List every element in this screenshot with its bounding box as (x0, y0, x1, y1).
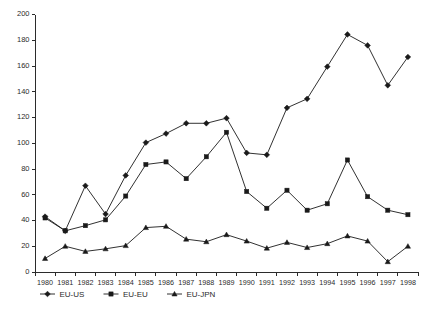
data-point (305, 208, 309, 212)
data-point (184, 237, 189, 242)
series-eu-eu (43, 130, 410, 233)
data-point (42, 256, 47, 261)
data-point (43, 216, 47, 220)
x-axis-tick-label: 1988 (198, 278, 214, 287)
y-axis-tick-label: 60 (21, 190, 29, 199)
line-chart: 020406080100120140160180200 198019811982… (0, 0, 431, 311)
data-point (285, 188, 289, 192)
y-axis-tick-label: 120 (17, 112, 30, 121)
legend-marker (45, 291, 51, 297)
data-point (224, 130, 228, 134)
x-axis-tick-label: 1981 (57, 278, 73, 287)
legend-item-eu-us[interactable]: EU-US (40, 290, 84, 299)
y-axis-tick-label: 140 (17, 87, 30, 96)
x-axis-tick-label: 1998 (400, 278, 416, 287)
x-axis-ticks: 1980198119821983198419851986198719881989… (35, 272, 418, 287)
chart-container: 020406080100120140160180200 198019811982… (0, 0, 431, 311)
x-axis-tick-label: 1980 (37, 278, 53, 287)
series-eu-jpn (42, 224, 410, 264)
y-axis-tick-label: 100 (17, 138, 30, 147)
data-point (124, 194, 128, 198)
data-point (224, 115, 230, 121)
x-axis-tick-label: 1984 (118, 278, 134, 287)
data-point (163, 131, 169, 137)
x-axis-tick-label: 1990 (239, 278, 255, 287)
data-point (164, 160, 168, 164)
data-point (406, 213, 410, 217)
legend-item-eu-eu[interactable]: EU-EU (104, 290, 149, 299)
y-axis-tick-label: 160 (17, 61, 30, 70)
data-point (83, 183, 89, 189)
x-axis-tick-label: 1982 (77, 278, 93, 287)
data-point (183, 120, 189, 126)
data-point (103, 218, 107, 222)
x-axis-tick-label: 1995 (339, 278, 355, 287)
data-point (143, 140, 149, 146)
y-axis-tick-label: 80 (21, 164, 29, 173)
data-point (345, 233, 350, 238)
chart-legend: EU-USEU-EUEU-JPN (40, 290, 216, 299)
y-axis-tick-label: 20 (21, 241, 29, 250)
data-point (345, 158, 349, 162)
data-point (123, 173, 129, 179)
x-axis-tick-label: 1985 (138, 278, 154, 287)
data-series-group (42, 32, 411, 264)
y-axis-tick-label: 40 (21, 215, 29, 224)
x-axis-tick-label: 1997 (380, 278, 396, 287)
data-point (204, 120, 210, 126)
data-point (405, 54, 411, 60)
data-point (245, 189, 249, 193)
x-axis-tick-label: 1994 (319, 278, 335, 287)
y-axis-tick-label: 180 (17, 35, 30, 44)
data-point (63, 229, 67, 233)
y-axis-tick-label: 200 (17, 9, 30, 18)
data-point (284, 240, 289, 245)
legend-label: EU-US (60, 290, 85, 299)
legend-marker (109, 292, 113, 296)
data-point (386, 208, 390, 212)
x-axis-tick-label: 1996 (360, 278, 376, 287)
data-point (83, 224, 87, 228)
x-axis-tick-label: 1993 (299, 278, 315, 287)
legend-label: EU-EU (123, 290, 148, 299)
y-axis-tick-label: 0 (25, 267, 29, 276)
legend-item-eu-jpn[interactable]: EU-JPN (167, 290, 216, 299)
data-point (284, 105, 290, 111)
x-axis-tick-label: 1983 (98, 278, 114, 287)
data-point (264, 152, 270, 158)
data-point (103, 211, 109, 217)
data-point (304, 96, 310, 102)
data-point (184, 177, 188, 181)
data-point (366, 195, 370, 199)
x-axis-tick-label: 1989 (219, 278, 235, 287)
x-axis-tick-label: 1991 (259, 278, 275, 287)
data-point (204, 155, 208, 159)
data-point (244, 150, 250, 156)
data-point (63, 244, 68, 249)
data-point (224, 232, 229, 237)
data-point (385, 82, 391, 88)
x-axis-tick-label: 1987 (178, 278, 194, 287)
data-point (345, 32, 351, 38)
data-point (325, 202, 329, 206)
data-point (144, 162, 148, 166)
data-point (324, 64, 330, 70)
x-axis-tick-label: 1992 (279, 278, 295, 287)
x-axis-tick-label: 1986 (158, 278, 174, 287)
data-point (405, 244, 410, 249)
y-axis-ticks: 020406080100120140160180200 (17, 9, 35, 276)
data-point (265, 206, 269, 210)
data-point (365, 43, 371, 49)
legend-label: EU-JPN (187, 290, 216, 299)
